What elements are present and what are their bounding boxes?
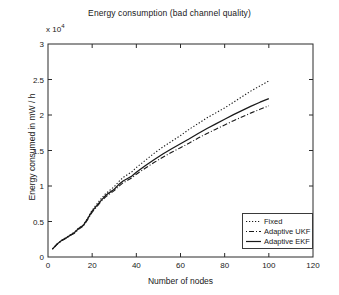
- legend-dotted-line-icon: [245, 217, 262, 226]
- plot-area: [0, 0, 339, 295]
- legend-label-fixed: Fixed: [262, 217, 282, 226]
- legend-item-adaptive-ekf[interactable]: Adaptive EKF: [243, 236, 312, 246]
- legend-item-adaptive-ukf[interactable]: Adaptive UKF: [243, 226, 312, 236]
- legend-solid-line-icon: [245, 237, 262, 246]
- legend-item-fixed[interactable]: Fixed: [243, 216, 312, 226]
- series-line-adaptive-ekf: [52, 99, 268, 250]
- series-line-adaptive-ukf: [52, 106, 268, 249]
- chart-legend: Fixed Adaptive UKF Adaptive EKF: [242, 213, 313, 249]
- legend-dashdot-line-icon: [245, 227, 262, 236]
- chart-figure: Energy consumption (bad channel quality)…: [0, 0, 339, 295]
- legend-label-adaptive-ukf: Adaptive UKF: [262, 227, 310, 236]
- legend-label-adaptive-ekf: Adaptive EKF: [262, 237, 310, 246]
